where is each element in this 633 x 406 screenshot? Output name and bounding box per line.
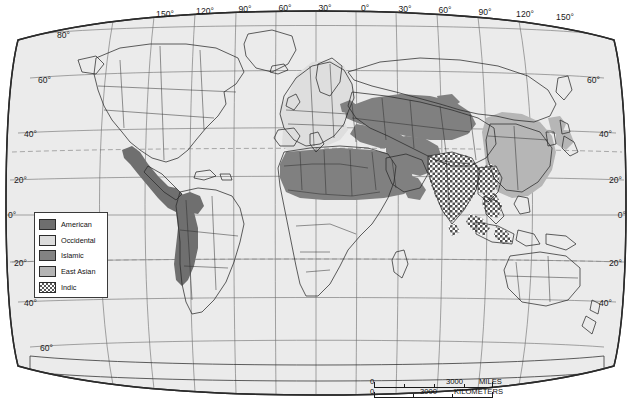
lat-label: 40° [24,298,37,308]
lat-label: 80° [57,30,70,40]
lon-label: 60° [439,5,452,15]
lat-label: 60° [587,75,600,85]
scale-tick [413,394,414,398]
scale-bar: 0 3000 MILES 0 3000 KILOMETERS [366,377,544,403]
legend-item-indic: Indic [39,279,107,295]
world-map-svg: 150° 120° 90° 60° 30° 0° 30° 60° 90° 120… [0,0,633,406]
lon-label: 30° [399,4,412,14]
legend-item-occidental: Occidental [39,233,107,249]
scale-bar-km-line [374,397,492,398]
scale-km-value: 3000 [420,388,437,396]
scale-km-unit: KILOMETERS [454,388,503,396]
lon-label: 0° [361,3,369,13]
legend-swatch-east-asian [39,266,56,277]
scale-tick [404,384,405,388]
legend-label-east-asian: East Asian [61,268,95,275]
lat-label: 60° [40,343,53,353]
lon-label: 90° [479,7,492,17]
legend-swatch-indic [39,282,56,293]
lat-label: 20° [14,175,27,185]
lon-label: 120° [196,6,214,16]
legend-swatch-occidental [39,235,56,246]
legend-label-american: American [61,221,92,228]
lat-label: 20° [609,175,622,185]
lon-label: 150° [156,9,174,19]
legend-label-indic: Indic [61,284,76,291]
scale-km-zero: 0 [370,388,374,396]
scale-miles-unit: MILES [479,378,502,386]
lat-label: 0° [618,210,626,220]
legend-item-islamic: Islamic [39,248,107,264]
legend-item-american: American [39,217,107,233]
legend-item-east-asian: East Asian [39,264,107,280]
lon-label: 90° [239,4,252,14]
lat-label: 40° [599,298,612,308]
lat-label: 20° [14,258,27,268]
lon-label: 60° [279,3,292,13]
scale-miles-zero: 0 [370,378,374,386]
lon-label: 150° [556,12,574,22]
lon-label: 120° [516,9,534,19]
lat-label: 20° [609,258,622,268]
lat-label: 40° [599,129,612,139]
map-figure: 150° 120° 90° 60° 30° 0° 30° 60° 90° 120… [0,0,633,406]
legend-label-occidental: Occidental [61,237,95,244]
scale-miles-value: 3000 [446,378,463,386]
scale-tick [452,394,453,398]
lat-label: 40° [24,129,37,139]
map-legend: American Occidental Islamic East Asian I… [34,212,108,298]
legend-swatch-islamic [39,250,56,261]
legend-label-islamic: Islamic [61,252,84,259]
lat-label: 0° [8,210,16,220]
legend-swatch-american [39,219,56,230]
lat-label: 60° [38,75,51,85]
lon-label: 30° [319,3,332,13]
